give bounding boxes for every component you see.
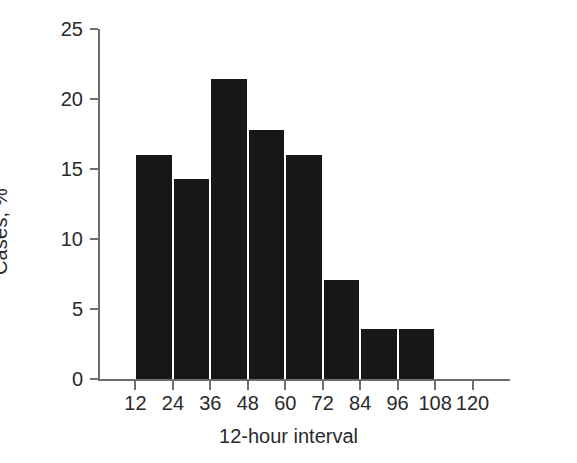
y-tick-label-15: 15	[61, 158, 83, 181]
y-tick-label-5: 5	[72, 298, 83, 321]
y-tick-label-20: 20	[61, 88, 83, 111]
x-tick-96	[397, 381, 399, 390]
x-tick-label-84: 84	[349, 392, 371, 415]
y-tick-10: 10	[90, 238, 98, 240]
bar-108	[398, 329, 435, 379]
x-tick-120	[472, 381, 474, 390]
bar-36	[173, 179, 210, 379]
x-tick-12	[134, 381, 136, 390]
bar-96	[360, 329, 397, 379]
bar-84	[323, 280, 360, 379]
x-tick-60	[284, 381, 286, 390]
x-tick-84	[359, 381, 361, 390]
y-tick-label-25: 25	[61, 18, 83, 41]
x-tick-label-120: 120	[456, 392, 489, 415]
x-axis-line	[98, 379, 510, 381]
bar-24	[135, 155, 172, 379]
y-tick-label-10: 10	[61, 228, 83, 251]
bar-60	[248, 130, 285, 379]
x-tick-72	[322, 381, 324, 390]
y-tick-20: 20	[90, 98, 98, 100]
x-axis-title: 12-hour interval	[0, 425, 577, 448]
x-tick-label-12: 12	[124, 392, 146, 415]
y-tick-label-0: 0	[72, 368, 83, 391]
x-tick-108	[434, 381, 436, 390]
x-tick-48	[247, 381, 249, 390]
x-tick-label-72: 72	[312, 392, 334, 415]
bar-48	[210, 79, 247, 379]
plot-area: 0510152025 1224364860728496108120	[98, 29, 510, 381]
y-tick-15: 15	[90, 168, 98, 170]
x-tick-label-108: 108	[418, 392, 451, 415]
x-tick-label-60: 60	[274, 392, 296, 415]
x-tick-label-96: 96	[387, 392, 409, 415]
y-axis-line	[98, 29, 100, 381]
x-tick-label-48: 48	[237, 392, 259, 415]
x-tick-36	[209, 381, 211, 390]
x-tick-label-36: 36	[199, 392, 221, 415]
y-tick-5: 5	[90, 308, 98, 310]
y-tick-25: 25	[90, 28, 98, 30]
x-tick-label-24: 24	[162, 392, 184, 415]
bar-chart: Cases, % 0510152025 12243648607284961081…	[0, 0, 577, 463]
bar-72	[285, 155, 322, 379]
y-tick-0: 0	[90, 378, 98, 380]
x-tick-24	[172, 381, 174, 390]
